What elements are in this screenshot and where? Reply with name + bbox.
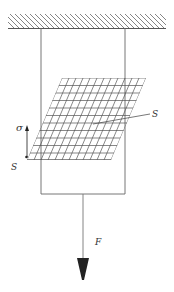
force-arrow — [77, 194, 89, 280]
ceiling-support — [0, 14, 174, 29]
diagram-canvas: S σ S F — [0, 0, 174, 292]
stress-label: σ — [16, 122, 24, 133]
shear-plane-label-left: S — [11, 162, 17, 172]
stress-arrow — [25, 125, 29, 158]
force-label: F — [94, 237, 102, 247]
shear-grid — [0, 78, 174, 160]
shear-plane-label-right: S — [152, 109, 158, 119]
